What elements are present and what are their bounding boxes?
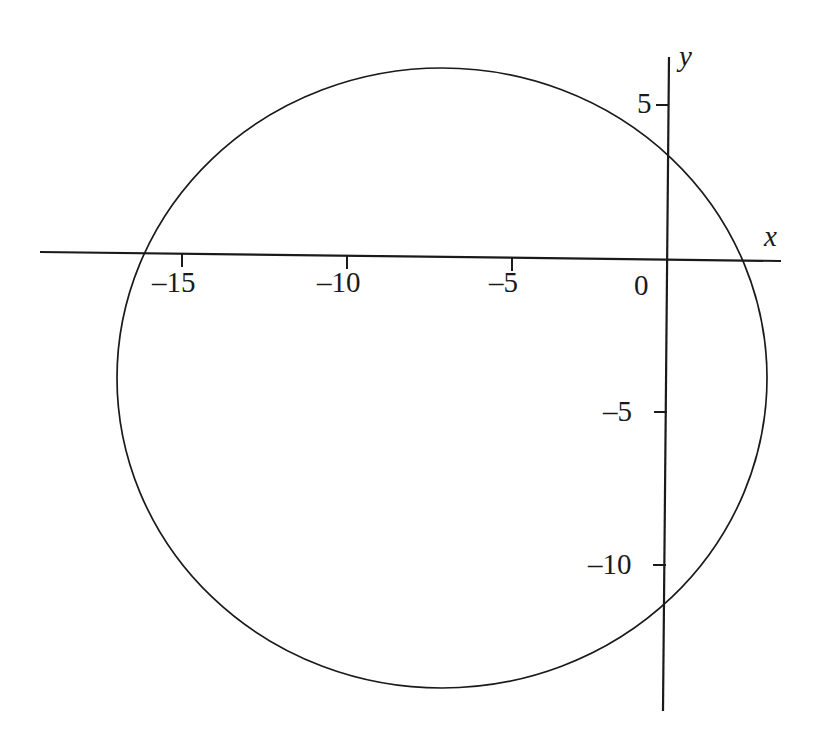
y-tick-label--10: –10 [588,550,632,579]
x-tick-label--15: –15 [152,268,196,297]
y-tick-label--5: –5 [603,397,632,426]
x-tick-label-0: 0 [634,271,649,300]
x-tick-label--10: –10 [317,268,361,297]
x-tick-label--5: –5 [489,268,518,297]
circle-graph-figure: –15 –10 –5 0 5 –5 –10 x y [0,0,826,743]
circle-curve [117,68,767,688]
y-tick-label-5: 5 [637,89,652,118]
x-axis-label: x [764,222,777,251]
y-axis-label: y [679,42,692,71]
x-axis-line [40,252,781,261]
plot-canvas [0,0,826,743]
